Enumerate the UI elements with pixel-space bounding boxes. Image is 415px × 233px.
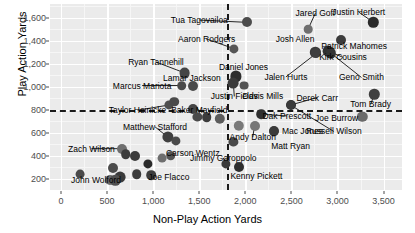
- plot-panel: Tua TagovailoaJared GoffJustin HerbertPa…: [50, 4, 402, 190]
- x-tick-label: 500: [100, 196, 115, 206]
- x-tick-label: 3,500: [372, 196, 395, 206]
- y-tick-label: 600: [0, 128, 46, 138]
- data-point[interactable]: [130, 151, 140, 161]
- x-tick-mark: [61, 191, 62, 194]
- point-label: Baker Mayfield: [171, 106, 227, 115]
- point-label: Matthew Stafford: [123, 123, 187, 132]
- x-tick-mark: [153, 191, 154, 194]
- grid-major-vertical: [61, 4, 62, 190]
- x-tick-label: 1,000: [142, 196, 165, 206]
- point-label: Zach Wilson: [68, 144, 115, 153]
- y-tick-label: 200: [0, 174, 46, 184]
- point-label: Patrick Mahomes: [321, 42, 387, 51]
- y-tick-mark: [46, 40, 49, 41]
- x-tick-mark: [245, 191, 246, 194]
- y-tick-mark: [46, 155, 49, 156]
- y-tick-label: 1,600: [0, 13, 46, 23]
- grid-major-vertical: [153, 4, 154, 190]
- point-label: Marcus Mariota: [113, 81, 172, 90]
- data-point[interactable]: [368, 17, 378, 27]
- data-point[interactable]: [250, 121, 260, 131]
- x-tick-label: 0: [59, 196, 64, 206]
- point-label: Joe Flacco: [148, 173, 189, 182]
- data-point[interactable]: [214, 114, 224, 124]
- grid-minor-vertical: [130, 4, 131, 190]
- point-label: Ryan Tannehill: [128, 58, 184, 67]
- x-tick-mark: [337, 191, 338, 194]
- point-label: Matt Ryan: [271, 142, 310, 151]
- grid-major-vertical: [384, 4, 385, 190]
- grid-major-vertical: [107, 4, 108, 190]
- point-label: Aaron Rodgers: [178, 35, 235, 44]
- point-label: Kenny Pickett: [230, 171, 282, 180]
- x-tick-mark: [383, 191, 384, 194]
- x-tick-mark: [291, 191, 292, 194]
- point-label: Jared Goff: [296, 9, 336, 18]
- x-tick-label: 3,000: [326, 196, 349, 206]
- y-tick-mark: [46, 63, 49, 64]
- point-label: Mac Jones: [282, 127, 323, 136]
- data-point[interactable]: [228, 78, 239, 89]
- point-label: Tom Brady: [350, 100, 391, 109]
- point-label: Geno Smith: [339, 73, 384, 82]
- x-tick-mark: [199, 191, 200, 194]
- data-point[interactable]: [132, 169, 142, 179]
- data-point[interactable]: [234, 121, 244, 131]
- y-tick-mark: [46, 109, 49, 110]
- point-label: Andy Dalton: [230, 133, 276, 142]
- grid-minor-vertical: [84, 4, 85, 190]
- x-tick-label: 2,000: [234, 196, 257, 206]
- data-point[interactable]: [304, 25, 313, 34]
- point-label: Josh Allen: [276, 35, 315, 44]
- y-tick-label: 1,200: [0, 59, 46, 69]
- point-label: Tua Tagovailoa: [171, 16, 228, 25]
- grid-minor-vertical: [361, 4, 362, 190]
- point-label: Derek Carr: [296, 93, 338, 102]
- point-label: Joe Burrow: [315, 113, 358, 122]
- y-tick-mark: [46, 132, 49, 133]
- y-tick-label: 1,000: [0, 82, 46, 92]
- point-label: Taylor Heinicke: [109, 106, 167, 115]
- point-label: Davis Mills: [243, 92, 284, 101]
- x-tick-label: 1,500: [188, 196, 211, 206]
- point-label: Kirk Cousins: [319, 53, 367, 62]
- point-label: Justin Herbert: [332, 8, 385, 17]
- y-tick-label: 1,400: [0, 36, 46, 46]
- data-point[interactable]: [242, 17, 252, 27]
- y-tick-label: 800: [0, 105, 46, 115]
- y-tick-mark: [46, 17, 49, 18]
- x-tick-label: 2,500: [280, 196, 303, 206]
- point-label: John Wolford: [71, 176, 121, 185]
- y-tick-label: 400: [0, 151, 46, 161]
- grid-major-vertical: [291, 4, 292, 190]
- point-label: Jalen Hurts: [264, 73, 307, 82]
- data-point[interactable]: [240, 81, 249, 90]
- scatter-chart: Play Action Yards Non-Play Action Yards …: [0, 0, 415, 233]
- x-axis-title: Non-Play Action Yards: [0, 213, 415, 225]
- point-label: Dak Prescott: [262, 112, 311, 121]
- y-tick-mark: [46, 178, 49, 179]
- x-tick-mark: [107, 191, 108, 194]
- y-tick-mark: [46, 86, 49, 87]
- point-label: Jimmy Garoppolo: [190, 154, 257, 163]
- point-label: Daniel Jones: [219, 62, 268, 71]
